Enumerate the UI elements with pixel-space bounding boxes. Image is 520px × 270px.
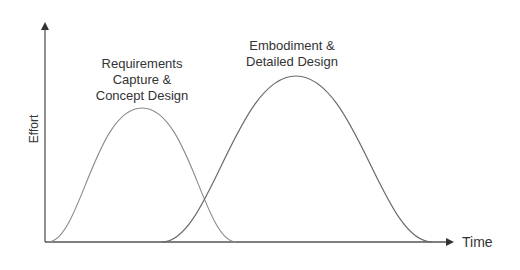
x-axis-label: Time bbox=[462, 234, 493, 250]
series2-label: Embodiment & Detailed Design bbox=[232, 38, 352, 70]
series1-label: Requirements Capture & Concept Design bbox=[92, 56, 192, 104]
curve-embodiment-detailed bbox=[162, 76, 432, 242]
series2-label-line1: Embodiment & bbox=[232, 38, 352, 54]
series1-label-line2: Capture & bbox=[92, 72, 192, 88]
series1-label-line3: Concept Design bbox=[92, 88, 192, 104]
series1-label-line1: Requirements bbox=[92, 56, 192, 72]
curve-requirements-concept bbox=[48, 108, 236, 242]
series2-label-line2: Detailed Design bbox=[232, 54, 352, 70]
y-axis-label: Effort bbox=[27, 109, 41, 149]
